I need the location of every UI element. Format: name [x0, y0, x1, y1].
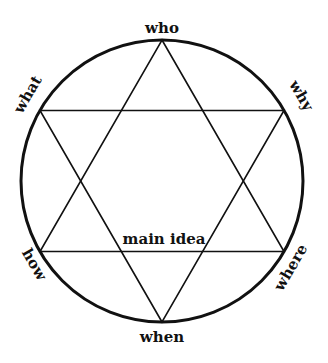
downward-triangle: [40, 111, 284, 323]
center-label: main idea: [123, 230, 206, 248]
vertex-label-who: who: [144, 19, 179, 37]
vertex-label-when: when: [139, 328, 184, 346]
vertex-label-where: where: [270, 241, 311, 295]
vertex-label-why: why: [285, 76, 318, 115]
upward-triangle: [40, 40, 284, 252]
outer-circle: [21, 40, 303, 322]
star-diagram: who when what why how where main idea: [0, 0, 328, 363]
